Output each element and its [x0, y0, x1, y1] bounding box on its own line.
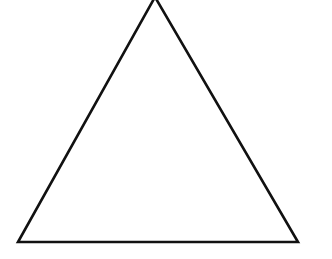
triangle-diagram	[0, 0, 332, 259]
triangle-shape	[18, 0, 298, 242]
